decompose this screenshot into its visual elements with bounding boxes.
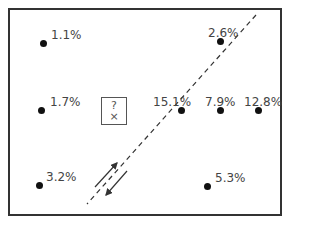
data-point-label: 5.3% — [215, 172, 246, 184]
data-point-label: 15.1% — [153, 96, 191, 108]
data-point-dot — [204, 183, 211, 190]
unknown-value-box: ? × — [101, 97, 127, 125]
arrow-down-icon — [106, 171, 127, 195]
data-point-label: 7.9% — [205, 96, 236, 108]
data-point-label: 1.1% — [51, 29, 82, 41]
data-point-dot — [36, 182, 43, 189]
data-point-label: 3.2% — [46, 171, 77, 183]
data-point-label: 1.7% — [50, 96, 81, 108]
cross-mark-icon: × — [102, 111, 126, 122]
data-point-dot — [38, 107, 45, 114]
data-point-label: 12.8% — [244, 96, 282, 108]
data-point-label: 2.6% — [208, 27, 239, 39]
data-point-dot — [40, 40, 47, 47]
